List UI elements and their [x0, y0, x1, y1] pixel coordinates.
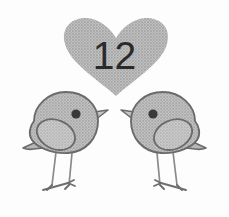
illustration-background [0, 0, 229, 217]
heart-count-label: 12 [0, 36, 229, 76]
birds-and-heart-illustration [0, 0, 229, 217]
illustration-canvas: 12 [0, 0, 229, 217]
